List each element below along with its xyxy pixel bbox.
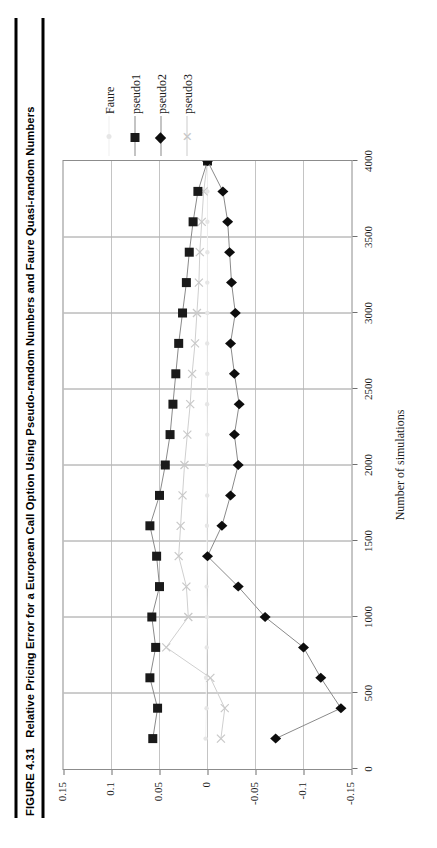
plot-canvas xyxy=(63,161,351,769)
y-axis-label: -0.15 xyxy=(343,782,355,828)
x-axis-tick xyxy=(352,616,357,617)
data-point-pseudo1 xyxy=(188,217,197,226)
x-axis-label: 0 xyxy=(361,744,373,794)
data-point-pseudo2 xyxy=(225,338,236,348)
legend-label: pseudo3 xyxy=(180,74,195,114)
legend-sample xyxy=(150,114,172,158)
data-point-pseudo2 xyxy=(228,369,239,379)
x-axis-label: 1000 xyxy=(361,592,373,642)
x-axis-tick xyxy=(352,464,357,465)
figure-caption-text: Relative Pricing Error for a European Ca… xyxy=(23,107,35,738)
diamond-icon xyxy=(154,132,165,143)
data-point-pseudo1 xyxy=(184,248,193,257)
data-point-Faure xyxy=(204,524,208,528)
data-point-pseudo2 xyxy=(225,490,236,500)
data-point-pseudo1 xyxy=(145,521,154,530)
data-point-Faure xyxy=(205,311,209,315)
chart-legend: Faurepseudo1pseudo2✕pseudo3 xyxy=(96,28,200,158)
legend-item-pseudo2[interactable]: pseudo2 xyxy=(148,28,174,158)
data-point-Faure xyxy=(203,736,207,740)
data-point-pseudo2 xyxy=(228,430,239,440)
x-axis-tick xyxy=(352,312,357,313)
y-axis-label: 0.15 xyxy=(55,782,67,828)
figure-page: FIGURE 4.31Relative Pricing Error for a … xyxy=(0,0,437,848)
data-point-pseudo1 xyxy=(165,430,174,439)
data-point-pseudo2 xyxy=(232,460,243,470)
data-point-Faure xyxy=(205,341,209,345)
data-point-Faure xyxy=(205,493,209,497)
x-axis-label: 3500 xyxy=(361,212,373,262)
plot-area xyxy=(62,160,352,770)
data-point-Faure xyxy=(205,432,209,436)
data-point-pseudo2 xyxy=(229,308,240,318)
data-point-pseudo1 xyxy=(148,734,157,743)
legend-sample: ✕ xyxy=(176,114,198,158)
data-point-pseudo2 xyxy=(216,521,227,531)
caption-rule-bottom xyxy=(41,18,44,818)
data-point-pseudo2 xyxy=(217,186,228,196)
legend-sample xyxy=(124,114,146,158)
x-axis-label: 500 xyxy=(361,668,373,718)
data-point-Faure xyxy=(204,706,208,710)
figure-number: FIGURE 4.31 xyxy=(23,748,35,816)
x-axis-title: Number of simulations xyxy=(392,160,407,770)
figure-caption-band: FIGURE 4.31Relative Pricing Error for a … xyxy=(14,18,44,818)
data-point-pseudo1 xyxy=(168,400,177,409)
y-axis-tick xyxy=(207,770,208,775)
x-icon: ✕ xyxy=(181,131,192,142)
data-point-pseudo3 xyxy=(174,552,182,560)
data-point-pseudo2 xyxy=(270,734,281,744)
data-point-pseudo1 xyxy=(147,613,156,622)
series-line-pseudo1 xyxy=(149,161,207,739)
data-point-pseudo3 xyxy=(162,643,170,651)
x-axis-label: 2000 xyxy=(361,440,373,490)
y-axis-label: 0.1 xyxy=(103,782,115,828)
legend-item-pseudo3[interactable]: ✕pseudo3 xyxy=(174,28,200,158)
series-line-Faure xyxy=(205,161,207,739)
data-point-pseudo1 xyxy=(160,461,169,470)
data-point-Faure xyxy=(204,402,208,406)
legend-sample xyxy=(98,114,120,158)
data-point-pseudo1 xyxy=(178,309,187,318)
y-axis-tick xyxy=(63,770,64,775)
data-point-pseudo2 xyxy=(315,673,326,683)
data-point-pseudo2 xyxy=(226,278,237,288)
x-axis-tick xyxy=(352,692,357,693)
data-point-Faure xyxy=(203,676,207,680)
data-point-pseudo3 xyxy=(216,735,224,743)
y-axis-label: -0.1 xyxy=(295,782,307,828)
y-axis-tick xyxy=(303,770,304,775)
y-axis-tick xyxy=(351,770,352,775)
data-point-pseudo2 xyxy=(233,399,244,409)
y-axis-label: 0 xyxy=(199,782,211,828)
caption-rule-top xyxy=(14,18,17,818)
data-point-pseudo1 xyxy=(193,187,202,196)
x-axis-tick xyxy=(352,540,357,541)
data-point-pseudo1 xyxy=(152,552,161,561)
data-point-Faure xyxy=(204,645,208,649)
legend-label: pseudo1 xyxy=(128,74,143,114)
dot-icon xyxy=(106,134,111,139)
x-axis-label: 4000 xyxy=(361,136,373,186)
figure-caption: FIGURE 4.31Relative Pricing Error for a … xyxy=(19,107,39,816)
x-axis-tick xyxy=(352,768,357,769)
data-point-Faure xyxy=(205,372,209,376)
data-point-pseudo2 xyxy=(224,247,235,257)
series-line-pseudo2 xyxy=(207,161,340,739)
legend-item-pseudo1[interactable]: pseudo1 xyxy=(122,28,148,158)
data-point-pseudo1 xyxy=(171,369,180,378)
data-point-pseudo1 xyxy=(151,643,160,652)
data-point-Faure xyxy=(205,250,209,254)
series-line-pseudo3 xyxy=(166,161,225,739)
data-point-pseudo1 xyxy=(155,491,164,500)
data-point-pseudo2 xyxy=(259,612,270,622)
x-axis-label: 1500 xyxy=(361,516,373,566)
data-point-pseudo2 xyxy=(222,217,233,227)
data-point-Faure xyxy=(205,280,209,284)
legend-label: pseudo2 xyxy=(154,74,169,114)
legend-item-Faure[interactable]: Faure xyxy=(96,28,122,158)
x-axis-label: 2500 xyxy=(361,364,373,414)
data-point-pseudo1 xyxy=(155,582,164,591)
data-point-Faure xyxy=(204,463,208,467)
data-point-pseudo1 xyxy=(145,673,154,682)
